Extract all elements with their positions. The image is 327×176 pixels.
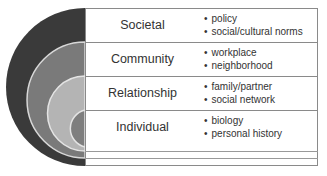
level-row-individual: Individual biology personal history xyxy=(85,110,318,145)
divider-line xyxy=(85,158,318,159)
level-items: family/partner social network xyxy=(204,80,275,106)
list-item: family/partner xyxy=(204,80,275,93)
bottom-band xyxy=(85,144,318,166)
list-item: neighborhood xyxy=(204,59,273,72)
level-label: Community xyxy=(86,52,199,66)
list-item: personal history xyxy=(204,127,282,140)
level-row-societal: Societal policy social/cultural norms xyxy=(85,8,318,43)
level-row-relationship: Relationship family/partner social netwo… xyxy=(85,76,318,111)
list-item: workplace xyxy=(204,46,273,59)
list-item: biology xyxy=(204,114,282,127)
divider-line xyxy=(85,151,318,152)
level-label: Societal xyxy=(86,18,199,32)
list-item: social/cultural norms xyxy=(204,25,303,38)
level-label: Relationship xyxy=(86,86,199,100)
list-item: social network xyxy=(204,93,275,106)
level-row-community: Community workplace neighborhood xyxy=(85,42,318,77)
level-items: policy social/cultural norms xyxy=(204,12,303,38)
list-item: policy xyxy=(204,12,303,25)
level-items: workplace neighborhood xyxy=(204,46,273,72)
level-label: Individual xyxy=(86,120,199,134)
level-items: biology personal history xyxy=(204,114,282,140)
